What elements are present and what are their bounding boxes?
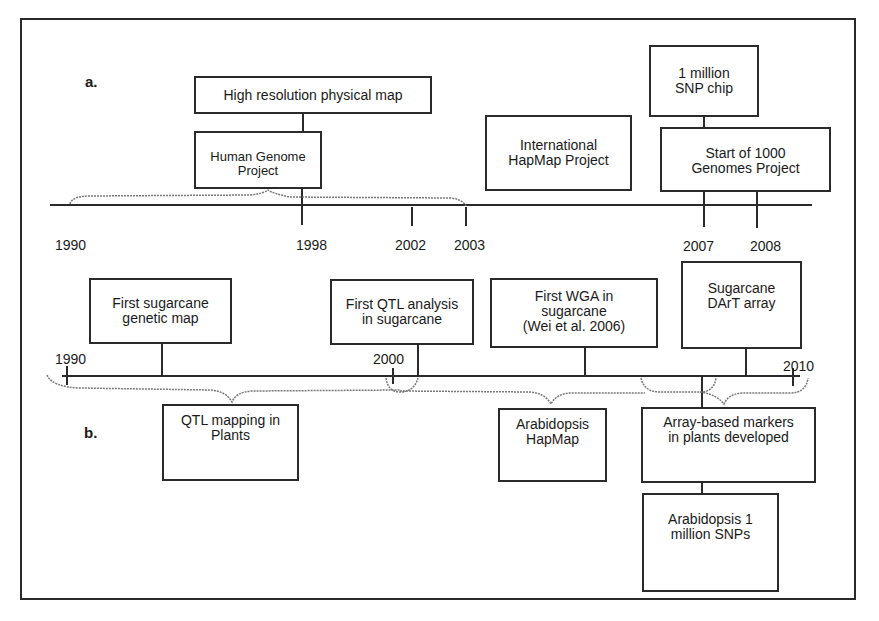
year-label-1990-b: 1990 <box>55 351 86 367</box>
event-first-sugarcane-genetic-map: First sugarcane genetic map <box>89 278 232 344</box>
year-label-2010: 2010 <box>783 358 814 374</box>
event-arabidopsis-1-million-snps: Arabidopsis 1 million SNPs <box>642 493 779 592</box>
event-first-wga-in-sugarcane: First WGA in sugarcane (Wei et al. 2006) <box>490 278 658 348</box>
event-high-resolution-physical-map: High resolution physical map <box>194 76 432 114</box>
event-first-qtl-analysis-in-sugarcane: First QTL analysis in sugarcane <box>330 279 474 345</box>
event-start-of-1000-genomes-project: Start of 1000 Genomes Project <box>660 127 831 192</box>
panel-b-label: b. <box>84 424 97 441</box>
event-arabidopsis-hapmap: Arabidopsis HapMap <box>498 408 607 482</box>
event-array-based-markers: Array-based markers in plants developed <box>641 407 816 483</box>
event-international-hapmap-project: International HapMap Project <box>485 115 632 191</box>
year-label-2007: 2007 <box>683 238 714 254</box>
event-qtl-mapping-in-plants: QTL mapping in Plants <box>162 404 299 481</box>
year-label-1990-a: 1990 <box>55 237 86 253</box>
year-label-2008: 2008 <box>750 238 781 254</box>
event-sugarcane-dart-array: Sugarcane DArT array <box>681 261 802 349</box>
panel-a-label: a. <box>85 73 98 90</box>
year-label-2003: 2003 <box>454 237 485 253</box>
event-1-million-snp-chip: 1 million SNP chip <box>649 45 759 117</box>
year-label-2002: 2002 <box>395 237 426 253</box>
event-human-genome-project: Human Genome Project <box>194 131 322 189</box>
year-label-1998: 1998 <box>296 237 327 253</box>
year-label-2000: 2000 <box>373 351 404 367</box>
